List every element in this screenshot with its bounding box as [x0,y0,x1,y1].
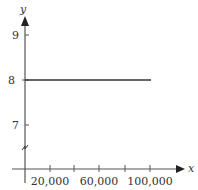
x-tick-label-100000: 100,000 [127,175,173,188]
axis-break-icon [22,145,28,150]
y-tick-label-7: 7 [12,119,19,132]
x-tick-label-60000: 60,000 [80,175,119,188]
y-tick-label-8: 8 [8,74,15,87]
x-axis-label: x [188,162,195,175]
y-axis-arrow-icon [21,16,29,26]
x-tick-label-20000: 20,000 [31,175,70,188]
y-axis-label: y [19,3,27,16]
x-axis-arrow-icon [176,165,185,173]
y-tick-label-9: 9 [12,29,19,42]
chart: y 9 8 7 x 20,000 60,000 100,000 [0,0,198,190]
